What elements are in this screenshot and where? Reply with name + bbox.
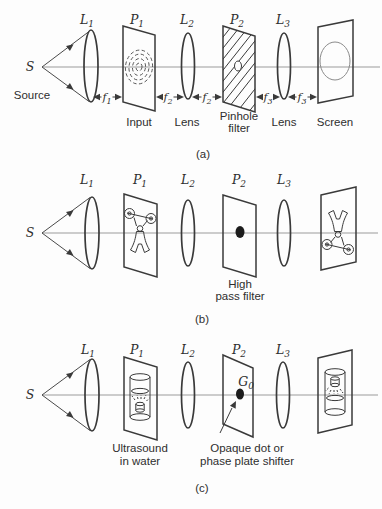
component-label-L2: L2 — [179, 12, 194, 29]
component-label-P1: P1 — [129, 342, 144, 359]
opaque-dot-label-line1: Opaque dot or — [210, 442, 284, 454]
source-symbol: S — [26, 59, 35, 74]
focal-label-f2: f2 — [162, 91, 172, 106]
ultrasound-label-line1: Ultrasound — [112, 442, 168, 454]
ray-upper-c — [42, 360, 90, 396]
pointer-arrow-line — [220, 408, 232, 433]
lens-L3-a — [278, 33, 291, 99]
high-pass-filter-label-line2: pass filter — [215, 290, 264, 302]
ray-lower-b — [42, 233, 90, 269]
caption-a: (a) — [196, 148, 210, 160]
textbook-figure-page: S Source L1 P1 L2 P2 L3 f1 f2 f2 f3 f3 I… — [0, 0, 382, 509]
source-symbol: S — [26, 225, 35, 240]
lens-label: Lens — [272, 116, 297, 128]
pinhole-filter-label-line1: Pinhole — [220, 110, 258, 122]
output-plate-b — [321, 187, 356, 270]
source-symbol: S — [26, 387, 35, 402]
source-label: Source — [14, 89, 50, 101]
component-label-L1: L1 — [79, 12, 94, 29]
diagram-b: S L1 P1 L2 P2 L3 High pass filter (b) — [26, 172, 378, 325]
screen-image-circle — [320, 42, 350, 80]
component-label-P2: P2 — [231, 342, 246, 359]
input-plate-P1-a — [123, 26, 155, 111]
lens-label: Lens — [175, 116, 200, 128]
weightlifter-figure — [125, 209, 157, 253]
high-pass-filter-label-line1: High — [228, 278, 252, 290]
ray-lower-c — [42, 395, 90, 431]
component-label-L2: L2 — [180, 342, 195, 359]
opaque-dot-b — [236, 226, 245, 238]
component-label-P2: P2 — [229, 12, 244, 29]
lens-L2-a — [182, 33, 195, 99]
component-label-L1: L1 — [80, 342, 95, 359]
component-label-L1: L1 — [79, 172, 94, 189]
opaque-dot-label-line2: phase plate shifter — [200, 455, 294, 467]
caption-b: (b) — [195, 313, 209, 325]
inverted-ultrasound-beaker-figure — [325, 369, 345, 416]
ray-upper-a — [42, 32, 89, 68]
input-plate-P1-b — [124, 194, 157, 277]
ultrasound-beaker-figure — [130, 374, 150, 421]
component-label-P2: P2 — [231, 172, 246, 189]
focal-label-f1: f1 — [101, 91, 111, 106]
output-plate-c — [318, 350, 352, 433]
g0-label: G0 — [238, 374, 254, 391]
component-label-L3: L3 — [275, 342, 290, 359]
focal-label-f3: f3 — [262, 91, 272, 106]
screen-label: Screen — [317, 116, 353, 128]
component-label-L3: L3 — [275, 12, 290, 29]
component-label-L3: L3 — [276, 172, 291, 189]
component-label-P1: P1 — [132, 172, 147, 189]
component-label-L2: L2 — [180, 172, 195, 189]
opaque-dot-c — [236, 389, 244, 400]
ray-upper-b — [42, 198, 90, 234]
diagram-c: S L1 P1 L2 P2 L3 G0 Ultrasound in water … — [26, 342, 378, 494]
focal-label-f2: f2 — [201, 91, 211, 106]
pointer-arrowhead-icon — [230, 400, 239, 409]
optical-spatial-filtering-figure: S Source L1 P1 L2 P2 L3 f1 f2 f2 f3 f3 I… — [0, 0, 382, 509]
focal-label-f3: f3 — [296, 91, 306, 106]
input-label: Input — [126, 116, 152, 128]
screen-plate-a — [318, 20, 353, 103]
ultrasound-label-line2: in water — [120, 455, 160, 467]
diagram-a: S Source L1 P1 L2 P2 L3 f1 f2 f2 f3 f3 I… — [14, 8, 380, 160]
caption-c: (c) — [195, 482, 209, 494]
lens-L1-a — [84, 30, 98, 102]
pinhole-filter-label-line2: filter — [228, 122, 250, 134]
component-label-P1: P1 — [129, 12, 144, 29]
pinhole-aperture — [235, 61, 242, 71]
